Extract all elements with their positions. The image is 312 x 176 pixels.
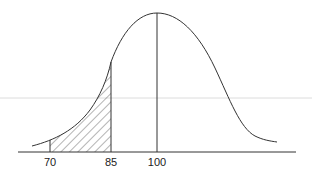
normal-curve-figure (0, 0, 312, 176)
tick-label-100: 100 (148, 156, 166, 168)
shaded-area (32, 62, 111, 152)
tick-label-85: 85 (105, 156, 117, 168)
bell-curve (32, 13, 277, 146)
tick-label-70: 70 (44, 156, 56, 168)
